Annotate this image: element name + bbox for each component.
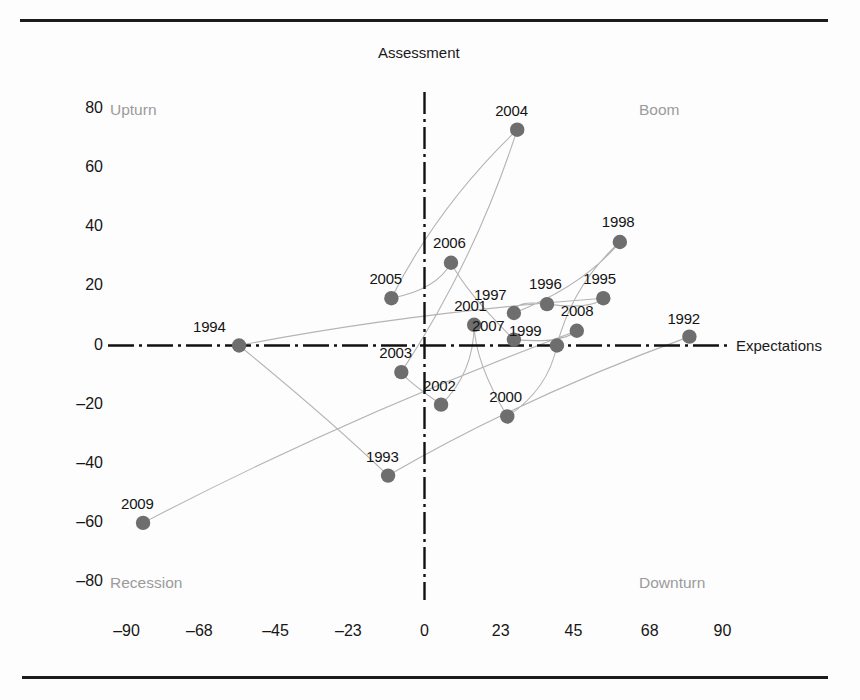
data-point-2000[interactable] — [500, 409, 514, 423]
y-tick-label: –60 — [55, 514, 103, 530]
y-tick-label: 80 — [55, 100, 103, 116]
quadrant-label-boom: Boom — [639, 102, 680, 118]
point-label-2006: 2006 — [433, 235, 466, 250]
quadrant-label-downturn: Downturn — [639, 575, 705, 591]
point-label-1992: 1992 — [667, 311, 700, 326]
point-label-1993: 1993 — [366, 449, 399, 464]
point-label-1994: 1994 — [193, 319, 226, 334]
data-point-1993[interactable] — [381, 468, 395, 482]
x-tick-label: 0 — [385, 623, 465, 639]
x-tick-label: –23 — [308, 623, 388, 639]
x-axis-title: Expectations — [736, 338, 822, 353]
y-tick-label: –20 — [55, 396, 103, 412]
point-label-2000: 2000 — [489, 389, 522, 404]
point-label-2001: 2001 — [454, 298, 487, 313]
point-label-2002: 2002 — [423, 378, 456, 393]
x-tick-label: 45 — [533, 623, 613, 639]
data-point-1997[interactable] — [507, 306, 521, 320]
point-label-2007: 2007 — [472, 318, 505, 333]
data-point-1994[interactable] — [232, 338, 246, 352]
point-label-2008: 2008 — [561, 303, 594, 318]
data-point-1996[interactable] — [540, 297, 554, 311]
point-label-2009: 2009 — [121, 496, 154, 511]
x-tick-label: –90 — [87, 623, 167, 639]
chart-figure: Assessment Expectations Upturn Boom Rece… — [0, 0, 860, 700]
data-point-1999[interactable] — [550, 338, 564, 352]
data-point-2005[interactable] — [384, 291, 398, 305]
y-tick-label: 20 — [55, 277, 103, 293]
data-point-2004[interactable] — [510, 122, 524, 136]
point-label-1995: 1995 — [583, 271, 616, 286]
data-point-2006[interactable] — [444, 256, 458, 270]
x-tick-label: 23 — [461, 623, 541, 639]
y-tick-label: 0 — [55, 337, 103, 353]
x-tick-label: –68 — [159, 623, 239, 639]
y-tick-label: –40 — [55, 455, 103, 471]
point-label-2005: 2005 — [369, 271, 402, 286]
point-label-2004: 2004 — [495, 103, 528, 118]
quadrant-label-upturn: Upturn — [110, 102, 157, 118]
point-label-1999: 1999 — [509, 323, 542, 338]
data-point-1992[interactable] — [682, 329, 696, 343]
point-label-1998: 1998 — [602, 214, 635, 229]
data-point-2003[interactable] — [394, 365, 408, 379]
y-tick-label: 60 — [55, 159, 103, 175]
x-tick-label: 90 — [682, 623, 762, 639]
x-tick-label: –45 — [236, 623, 316, 639]
y-tick-label: 40 — [55, 218, 103, 234]
y-axis-title: Assessment — [378, 45, 460, 60]
data-point-2008[interactable] — [570, 324, 584, 338]
point-label-1996: 1996 — [529, 276, 562, 291]
data-point-1998[interactable] — [613, 235, 627, 249]
data-point-1995[interactable] — [596, 291, 610, 305]
x-tick-label: 68 — [610, 623, 690, 639]
quadrant-label-recession: Recession — [110, 575, 182, 591]
data-point-2009[interactable] — [136, 516, 150, 530]
point-label-2003: 2003 — [379, 345, 412, 360]
y-tick-label: –80 — [55, 573, 103, 589]
data-point-2002[interactable] — [434, 397, 448, 411]
